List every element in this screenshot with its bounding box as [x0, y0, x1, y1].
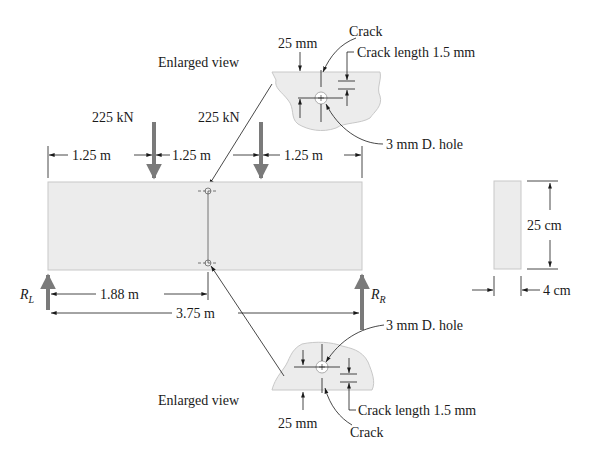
- bottom-crack-length-label: Crack length 1.5 mm: [358, 403, 476, 418]
- section-height-label: 25 cm: [527, 218, 562, 233]
- top-crack-length-label: Crack length 1.5 mm: [357, 45, 475, 60]
- bottom-edge-distance-label: 25 mm: [278, 416, 317, 431]
- span-dimensions: 1.25 m 1.25 m 1.25 m: [48, 146, 362, 178]
- reactions: RL RR: [19, 275, 386, 330]
- bottom-dimensions: 1.88 m 3.75 m: [51, 272, 359, 321]
- beam: [48, 182, 362, 270]
- cross-section-rect: [494, 181, 521, 269]
- span-3-label: 1.25 m: [284, 148, 323, 163]
- left-load-label: 225 kN: [92, 110, 134, 125]
- bottom-enlarged-view: 25 mm Crack length 1.5 mm Crack 3 mm D. …: [158, 266, 476, 440]
- right-load-label: 225 kN: [198, 110, 240, 125]
- bottom-crack-label: Crack: [350, 425, 383, 440]
- applied-loads: 225 kN 225 kN: [92, 110, 261, 178]
- bottom-hole-label: 3 mm D. hole: [386, 318, 463, 333]
- span-2-label: 1.25 m: [172, 148, 211, 163]
- section-width-label: 4 cm: [543, 283, 571, 298]
- cross-section: 25 cm 4 cm: [472, 181, 571, 298]
- bottom-enlarged-view-title: Enlarged view: [158, 393, 240, 408]
- span-1-label: 1.25 m: [72, 148, 111, 163]
- top-crack-label: Crack: [349, 24, 382, 39]
- hole-position-label: 1.88 m: [100, 287, 139, 302]
- right-reaction-label: RR: [370, 287, 386, 305]
- left-reaction-label: RL: [19, 287, 35, 305]
- beam-diagram: 25 mm Crack length 1.5 mm Crack 3 mm D. …: [0, 0, 606, 468]
- top-enlarged-view-title: Enlarged view: [158, 55, 240, 70]
- total-length-label: 3.75 m: [176, 306, 215, 321]
- top-edge-distance-label: 25 mm: [278, 36, 317, 51]
- beam-body: [48, 182, 362, 270]
- top-hole-label: 3 mm D. hole: [386, 137, 463, 152]
